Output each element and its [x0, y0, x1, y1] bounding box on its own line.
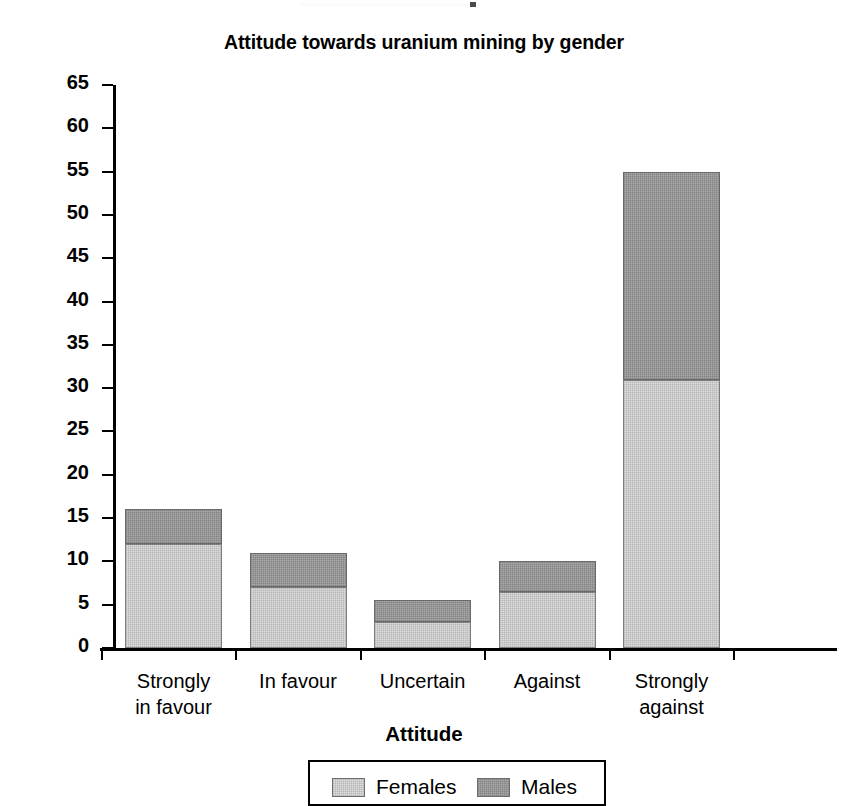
bar-segment-males: [374, 600, 471, 622]
page-edge-artifact: [0, 0, 848, 14]
bar-3: [374, 600, 471, 648]
category-label: Strongly in favour: [103, 668, 244, 720]
bar-segment-females: [499, 592, 596, 648]
category-label: In favour: [228, 668, 369, 694]
y-tick: [102, 257, 113, 259]
y-tick: [102, 171, 113, 173]
x-axis-line: [100, 648, 837, 651]
bar-segment-males: [125, 509, 222, 544]
y-tick: [102, 127, 113, 129]
y-tick: [102, 560, 113, 562]
bar-segment-females: [125, 544, 222, 648]
x-tick: [733, 648, 735, 660]
bar-1: [125, 509, 222, 648]
legend-label-females: Females: [376, 775, 457, 799]
y-tick: [102, 84, 113, 86]
legend-label-males: Males: [521, 775, 577, 799]
bar-5: [623, 172, 720, 648]
bar-segment-females: [374, 622, 471, 648]
light-gray-swatch-icon: [332, 778, 365, 797]
x-tick: [609, 648, 611, 660]
bar-4: [499, 561, 596, 648]
y-tick: [102, 344, 113, 346]
y-tick: [102, 214, 113, 216]
bar-segment-males: [499, 561, 596, 591]
y-tick: [102, 604, 113, 606]
plot-area: 05101520253035404550556065 Strongly in f…: [113, 85, 837, 648]
category-label: Strongly against: [601, 668, 742, 720]
x-tick: [101, 648, 103, 660]
y-axis-line: [113, 85, 116, 648]
y-tick: [102, 387, 113, 389]
bar-segment-females: [623, 380, 720, 649]
category-label: Against: [477, 668, 618, 694]
x-tick: [484, 648, 486, 660]
x-tick: [360, 648, 362, 660]
chart-legend: Females Males: [308, 760, 606, 806]
category-label: Uncertain: [352, 668, 493, 694]
bar-segment-males: [623, 172, 720, 380]
y-tick: [102, 474, 113, 476]
y-tick: [102, 430, 113, 432]
dark-gray-swatch-icon: [477, 778, 510, 797]
bar-2: [250, 553, 347, 648]
y-tick: [102, 647, 113, 649]
artifact-smear: [300, 3, 480, 6]
bar-segment-females: [250, 587, 347, 648]
y-tick: [102, 517, 113, 519]
chart-title: Attitude towards uranium mining by gende…: [0, 31, 848, 54]
y-tick: [102, 301, 113, 303]
legend-item-males: Males: [477, 775, 577, 799]
x-axis-title: Attitude: [0, 722, 848, 746]
bar-segment-males: [250, 553, 347, 588]
artifact-mark: [470, 2, 476, 7]
x-tick: [235, 648, 237, 660]
legend-item-females: Females: [332, 775, 457, 799]
